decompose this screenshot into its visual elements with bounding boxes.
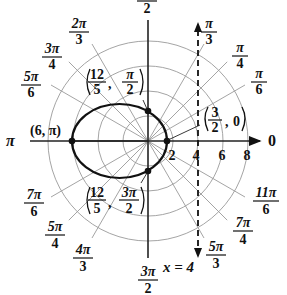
svg-text:4: 4 (240, 232, 247, 247)
angle-label-5pi-over-6: 5π 6 (21, 69, 41, 100)
svg-text:2: 2 (144, 1, 151, 16)
angle-label-4pi-over-3: 4π 3 (73, 242, 93, 274)
polar-graph: 2 4 6 8 0 π 2 π 3 π 4 π 6 2π 3 3π 4 5π 6 (0, 0, 287, 295)
svg-text:2: 2 (127, 82, 134, 97)
leader-top (143, 100, 147, 109)
point-3-2-0 (164, 138, 171, 145)
angle-label-pi-over-3: π 3 (201, 16, 217, 47)
leader-right (168, 125, 200, 140)
point-label-6-pi: (6, π) (30, 123, 61, 139)
svg-text:3: 3 (206, 32, 213, 47)
svg-text:4: 4 (237, 56, 244, 71)
svg-text:π: π (126, 67, 134, 82)
grid-ray (148, 141, 227, 220)
tick-label-4: 4 (193, 148, 200, 163)
svg-text:3: 3 (213, 256, 220, 271)
point-label-3-2-0: 3 2 , 0 (205, 105, 245, 135)
angle-label-pi-over-4: π 4 (232, 40, 248, 71)
angle-label-pi-over-6: π 6 (251, 66, 267, 97)
point-12-5-pi-2 (145, 108, 152, 115)
svg-text:12: 12 (90, 67, 104, 82)
angle-label-3pi-over-4: 3π 4 (42, 41, 62, 72)
svg-text:2: 2 (212, 120, 219, 135)
svg-text:3: 3 (80, 259, 87, 274)
svg-text:4π: 4π (75, 242, 91, 257)
point-label-12-5-3pi-2: 12 5 , 3π 2 (87, 185, 144, 216)
angle-label-3pi-over-2: 3π 2 (138, 264, 158, 295)
angle-label-5pi-over-3: 5π 3 (206, 239, 226, 271)
svg-text:4: 4 (49, 57, 56, 72)
svg-text:5: 5 (94, 82, 101, 97)
svg-text:7π: 7π (27, 187, 42, 202)
svg-text:11π: 11π (256, 185, 277, 200)
directrix-arrow-down-icon (194, 248, 202, 258)
angle-label-11pi-over-6: 11π 6 (253, 185, 279, 217)
svg-text:5π: 5π (24, 69, 39, 84)
svg-text:3π: 3π (44, 41, 60, 56)
svg-text:3: 3 (76, 32, 83, 47)
tick-label-6: 6 (219, 148, 226, 163)
svg-text:2: 2 (126, 201, 133, 216)
svg-text:π: π (255, 66, 263, 81)
angle-label-5pi-over-4: 5π 4 (45, 219, 65, 251)
point-6-pi (69, 138, 76, 145)
svg-text:0: 0 (233, 114, 240, 129)
svg-text:6: 6 (263, 202, 270, 217)
grid-ray (69, 62, 148, 141)
angle-label-7pi-over-6: 7π 6 (24, 187, 44, 219)
svg-text:,: , (108, 195, 112, 210)
point-12-5-3pi-2 (145, 168, 152, 175)
svg-text:5π: 5π (209, 239, 224, 254)
svg-text:π: π (236, 40, 244, 55)
svg-text:6: 6 (28, 85, 35, 100)
angle-label-7pi-over-4: 7π 4 (233, 215, 253, 247)
svg-text:3π: 3π (121, 185, 137, 200)
svg-text:5: 5 (94, 201, 101, 216)
svg-text:6: 6 (31, 204, 38, 219)
svg-text:4: 4 (52, 236, 59, 251)
angle-label-pi: π (6, 132, 16, 149)
svg-text:6: 6 (256, 82, 263, 97)
angle-label-pi-over-2: 2 (137, 1, 157, 16)
svg-text:7π: 7π (236, 215, 251, 230)
svg-text:3: 3 (212, 105, 219, 120)
svg-text:,: , (225, 114, 229, 129)
angle-label-0: 0 (268, 132, 276, 149)
svg-text:2π: 2π (71, 16, 87, 31)
svg-text:3π: 3π (140, 264, 156, 279)
svg-text:,: , (108, 76, 112, 91)
tick-label-2: 2 (169, 148, 176, 163)
svg-text:12: 12 (90, 185, 104, 200)
svg-text:π: π (205, 16, 213, 31)
directrix-label: x = 4 (162, 259, 195, 275)
svg-text:5π: 5π (48, 219, 63, 234)
svg-text:2: 2 (145, 281, 152, 295)
angle-label-2pi-over-3: 2π 3 (69, 16, 89, 47)
directrix-arrow-up-icon (194, 22, 202, 32)
tick-label-8: 8 (244, 148, 251, 163)
